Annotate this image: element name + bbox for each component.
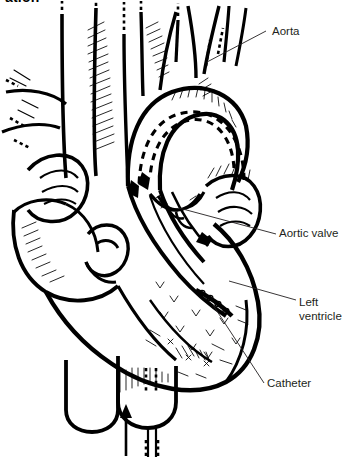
superior-vena-cava (62, 1, 96, 178)
catheter-entry-shaft (146, 428, 158, 457)
label-aortic-valve: Aortic valve (279, 227, 338, 241)
label-catheter: Catheter (267, 377, 311, 391)
label-aorta: Aorta (272, 25, 300, 39)
pulmonary-vein-stumps (2, 70, 66, 148)
label-left-ventricle: Left ventricle (299, 296, 342, 323)
vessel-dense-hatch (88, 22, 114, 150)
catheter-tip-in-ventricle (196, 290, 232, 316)
left-ventricle-wall (46, 224, 260, 390)
anatomical-figure: ation (0, 0, 344, 457)
left-ventricle-leader (229, 281, 296, 300)
vessel-shading-hatch (146, 22, 214, 96)
myocardium-texture (146, 282, 248, 378)
left-atrium (13, 200, 118, 301)
stump-lumen-dots (146, 368, 156, 392)
